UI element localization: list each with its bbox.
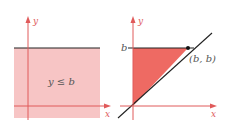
y-axis-label: y bbox=[137, 16, 144, 26]
y-axis-label: y bbox=[32, 16, 39, 26]
right-panel: y x b (b, b) bbox=[118, 16, 217, 120]
y-axis-arrow-icon bbox=[131, 16, 136, 23]
b-tick-label: b bbox=[121, 42, 127, 53]
point-b-b-icon bbox=[186, 46, 190, 50]
point-label: (b, b) bbox=[189, 53, 216, 64]
x-axis-label: x bbox=[211, 109, 216, 119]
y-axis-arrow-icon bbox=[26, 16, 31, 23]
x-axis-arrow-icon bbox=[210, 104, 217, 109]
diagonal-line-y-eq-x bbox=[118, 33, 212, 118]
diagram-canvas: y x y ≤ b y x b (b, b) bbox=[0, 0, 228, 135]
x-axis-arrow-icon bbox=[104, 104, 111, 109]
left-panel: y x y ≤ b bbox=[14, 16, 111, 120]
region-label: y ≤ b bbox=[47, 76, 75, 87]
x-axis-label: x bbox=[105, 109, 110, 119]
